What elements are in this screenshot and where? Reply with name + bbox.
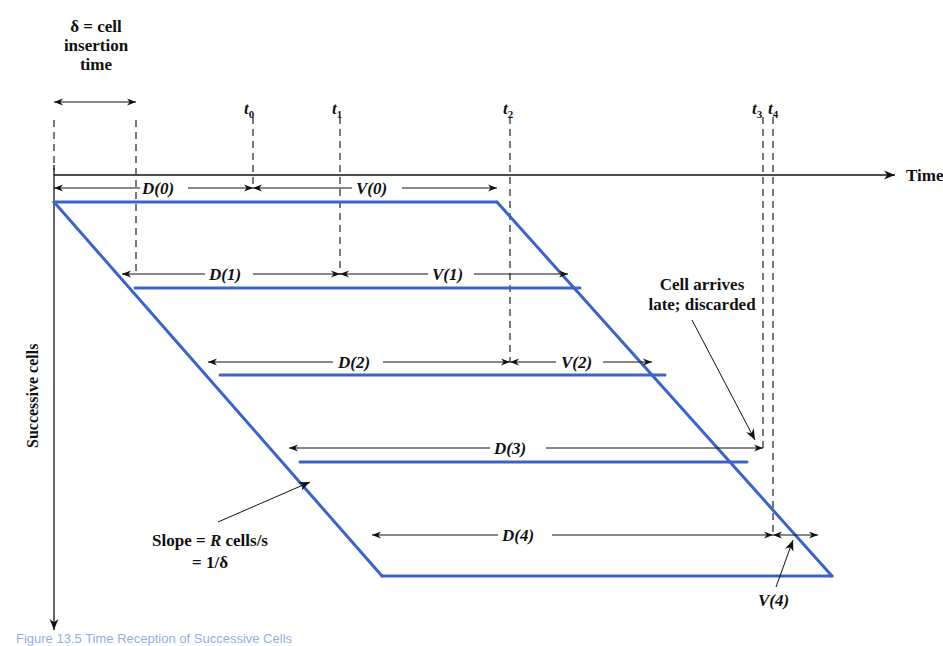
delta-label-line1: δ = cell xyxy=(36,18,156,35)
delta-label-text-3: time xyxy=(80,55,112,74)
d1-label: D(1) xyxy=(209,266,241,283)
send-slope-line xyxy=(54,202,382,576)
late-discarded-annotation: Cell arrives late; discarded xyxy=(632,275,772,315)
v4-label: V(4) xyxy=(758,592,789,609)
slope-annotation: Slope = R cells/s = 1/δ xyxy=(120,530,300,574)
delta-label-line2: insertion xyxy=(36,37,156,54)
successive-cells-label: Successive cells xyxy=(24,344,42,448)
late-pointer xyxy=(692,320,755,440)
figure-caption: Figure 13.5 Time Reception of Successive… xyxy=(16,631,292,646)
t4-label: t4 xyxy=(768,100,778,120)
time-axis-label: Time xyxy=(906,167,943,184)
t1-label: t1 xyxy=(332,100,342,120)
slope-annotation-line1: Slope = R cells/s xyxy=(120,530,300,552)
t0-label: t0 xyxy=(244,100,254,120)
delta-label-text-1: δ = cell xyxy=(70,17,122,36)
delta-label-line3: time xyxy=(36,56,156,73)
slope-annotation-line2: = 1/δ xyxy=(120,552,300,574)
delta-label: δ = cell insertion time xyxy=(36,18,156,73)
t2-label: t2 xyxy=(503,100,513,120)
d4-label: D(4) xyxy=(502,527,534,544)
d2-label: D(2) xyxy=(338,354,370,371)
v2-label: V(2) xyxy=(561,354,592,371)
d3-label: D(3) xyxy=(494,440,526,457)
late-annotation-line1: Cell arrives xyxy=(632,275,772,295)
slope-pointer xyxy=(218,482,310,522)
receive-slope-line xyxy=(497,202,832,576)
v4-pointer xyxy=(776,540,793,587)
delta-label-text-2: insertion xyxy=(64,36,128,55)
v1-label: V(1) xyxy=(432,266,463,283)
v0-label: V(0) xyxy=(356,180,387,197)
late-annotation-line2: late; discarded xyxy=(632,295,772,315)
t3-label: t3 xyxy=(752,100,762,120)
d0-label: D(0) xyxy=(142,180,174,197)
